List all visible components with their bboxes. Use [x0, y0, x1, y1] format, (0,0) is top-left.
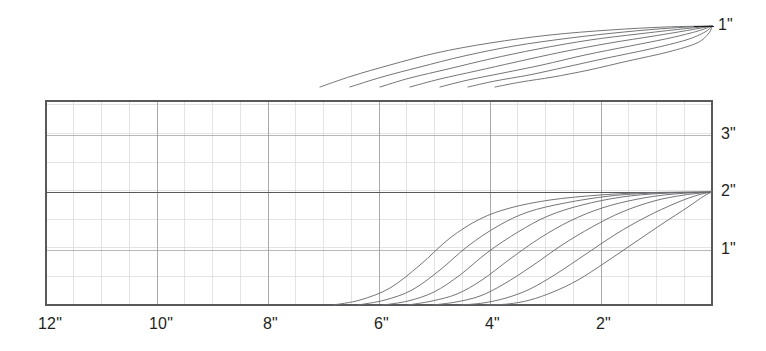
y-axis-label-2in: 2" — [721, 183, 736, 199]
top-curve — [495, 26, 712, 87]
technical-curve-diagram — [0, 0, 766, 351]
y-axis-label-3in: 3" — [721, 126, 736, 142]
top-panel-end-label: 1" — [718, 17, 733, 33]
figure-root: 1" 3" 2" 1" 12" 10" 8" 6" 4" 2" — [0, 0, 766, 351]
x-axis-label-10in: 10" — [149, 316, 173, 332]
chart-curve — [408, 192, 712, 305]
top-curve-family — [320, 26, 712, 87]
x-axis-label-2in: 2" — [596, 316, 611, 332]
top-curve — [410, 26, 712, 87]
y-axis-label-1in: 1" — [721, 241, 736, 257]
chart-curve-family — [333, 192, 712, 305]
x-axis-label-12in: 12" — [38, 316, 62, 332]
chart-curve — [433, 192, 712, 305]
top-curve — [440, 26, 712, 87]
x-axis-label-8in: 8" — [263, 316, 278, 332]
chart-curve — [358, 192, 712, 305]
chart-curve — [461, 192, 712, 305]
x-axis-label-6in: 6" — [374, 316, 389, 332]
x-axis-label-4in: 4" — [485, 316, 500, 332]
chart-curve — [333, 192, 712, 305]
